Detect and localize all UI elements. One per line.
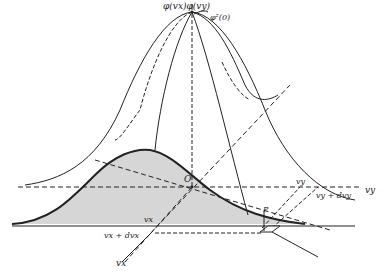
label-vx-tick: vx	[144, 215, 154, 224]
peak-leader	[194, 11, 208, 14]
origin-point	[191, 186, 194, 189]
label-vx-plus: vx + dvx	[104, 231, 139, 240]
maxwell-distribution-diagram: φ(vx)φ(vy) φ²(0) O vy vy vy + dvy vx vx …	[0, 0, 384, 276]
outer-bell-right	[192, 12, 355, 200]
meridian-left	[155, 12, 192, 150]
label-origin: O	[184, 174, 192, 184]
label-vy-plus: vy + dvy	[316, 191, 351, 200]
tail-line	[272, 232, 318, 257]
label-vy-tick: vy	[296, 177, 306, 186]
label-peak: φ²(0)	[210, 13, 230, 22]
label-top-product: φ(vx)φ(vy)	[163, 1, 210, 11]
dashed-bell-left	[115, 12, 192, 140]
label-vx-axis: vx	[116, 258, 126, 268]
label-vy-axis: vy	[365, 185, 376, 195]
label-point: P	[262, 205, 269, 214]
